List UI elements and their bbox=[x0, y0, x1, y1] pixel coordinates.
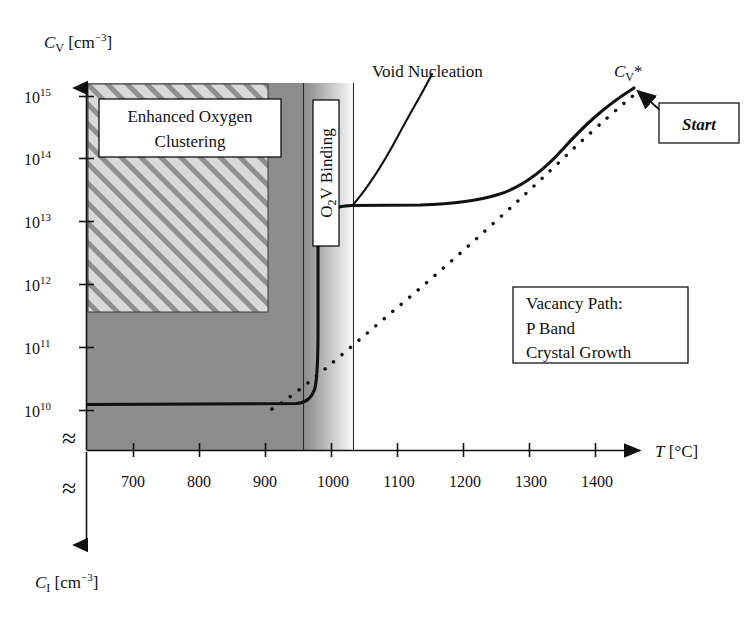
y-tick-label: 1010 bbox=[24, 400, 52, 420]
marker-cv-star-label: CV* bbox=[614, 62, 643, 84]
annotation-line: P Band bbox=[526, 319, 575, 338]
annotation-line: Void Nucleation bbox=[372, 62, 483, 81]
x-tick-label: 900 bbox=[253, 473, 277, 490]
svg-text:CI [cm−3]: CI [cm−3] bbox=[35, 571, 98, 595]
svg-text:T [°C]: T [°C] bbox=[655, 442, 698, 461]
x-tick-label: 800 bbox=[187, 473, 211, 490]
svg-text:CV*: CV* bbox=[614, 62, 643, 84]
annotation-enhanced-oxygen-clustering: Enhanced Oxygen Clustering bbox=[99, 99, 281, 157]
svg-text:≈: ≈ bbox=[62, 424, 76, 453]
annotation-line: Clustering bbox=[155, 132, 226, 151]
annotation-void-nucleation: Void Nucleation bbox=[372, 62, 483, 81]
x-tick-label: 1100 bbox=[383, 473, 414, 490]
annotation-o2v-binding: O2V Binding bbox=[313, 100, 339, 246]
x-tick-label: 1400 bbox=[581, 473, 613, 490]
start-label: Start bbox=[682, 115, 717, 134]
annotation-line: Vacancy Path: bbox=[526, 294, 623, 313]
y-tick-label: 1014 bbox=[24, 148, 52, 168]
lower-axis-title: CI [cm−3] bbox=[35, 571, 98, 595]
y-axis-title: CV [cm−3] bbox=[44, 31, 112, 55]
x-tick-label: 700 bbox=[121, 473, 145, 490]
annotation-start-box: Start bbox=[639, 92, 739, 143]
x-axis-tick-labels: 700 800 900 1000 1100 1200 1300 1400 bbox=[121, 473, 613, 490]
x-tick-label: 1200 bbox=[449, 473, 481, 490]
series-void-nucleation-solid bbox=[352, 74, 432, 206]
y-tick-label: 1015 bbox=[24, 86, 52, 106]
y-tick-label: 1013 bbox=[24, 211, 52, 231]
chart-canvas: 1015 1014 1013 1012 1011 1010 ≈ ≈ CV [cm… bbox=[0, 0, 753, 620]
svg-text:CV [cm−3]: CV [cm−3] bbox=[44, 31, 112, 55]
axis-break-symbol-upper: ≈ bbox=[62, 424, 76, 453]
annotation-line: Crystal Growth bbox=[526, 343, 632, 362]
y-tick-label: 1012 bbox=[24, 274, 51, 294]
y-tick-label: 1011 bbox=[24, 337, 51, 357]
y-axis-tick-labels: 1015 1014 1013 1012 1011 1010 bbox=[24, 86, 52, 420]
figure-root: 1015 1014 1013 1012 1011 1010 ≈ ≈ CV [cm… bbox=[0, 0, 753, 620]
annotation-vacancy-path: Vacancy Path: P Band Crystal Growth bbox=[513, 287, 688, 363]
x-tick-label: 1300 bbox=[515, 473, 547, 490]
svg-text:≈: ≈ bbox=[62, 474, 76, 503]
axis-break-symbol-lower: ≈ bbox=[62, 474, 76, 503]
x-tick-label: 1000 bbox=[317, 473, 349, 490]
annotation-line: Enhanced Oxygen bbox=[127, 107, 253, 126]
x-axis-title: T [°C] bbox=[655, 442, 698, 461]
